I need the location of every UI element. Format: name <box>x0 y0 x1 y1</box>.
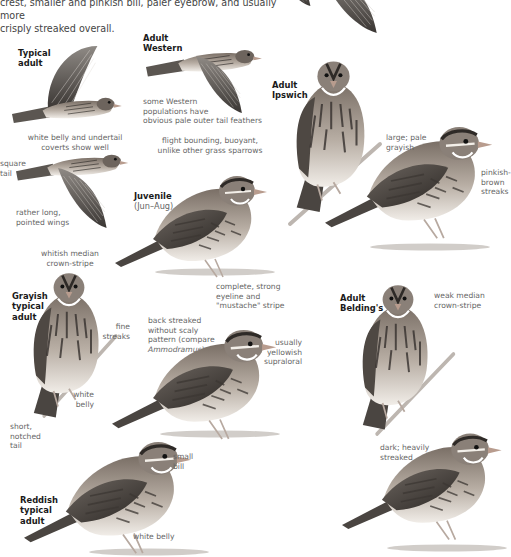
note-line: unlike other grass sparrows <box>145 146 275 156</box>
note-line: populations have <box>143 107 283 117</box>
note-line: brown <box>481 178 511 188</box>
note-line: small <box>173 452 193 462</box>
note-pale-outer-tail: some Western populations have obvious pa… <box>143 97 283 126</box>
note-eyeline-mustache: complete, strong eyeline and "mustache" … <box>216 282 285 311</box>
note-yellowish-supraloral: usually yellowish supraloral <box>262 338 302 367</box>
grayish-typical-adult-illustration <box>14 270 110 430</box>
label-line: Reddish <box>20 495 58 505</box>
intro-line-1: crest, smaller and pinkish bill, paler e… <box>0 0 300 22</box>
note-line: complete, strong <box>216 282 285 292</box>
note-line: white belly and undertail <box>20 133 130 143</box>
note-line: crown-stripe <box>434 301 485 311</box>
juvenile-illustration <box>115 165 275 280</box>
note-line: grayish <box>386 143 426 153</box>
note-line: supraloral <box>262 357 302 367</box>
note-line: large; pale <box>386 133 426 143</box>
note-line: flight bounding, buoyant, <box>145 136 275 146</box>
note-line: obvious pale outer tail feathers <box>143 116 283 126</box>
note-line: belly <box>68 400 94 410</box>
note-line: "mustache" stripe <box>216 301 285 311</box>
note-white-belly-reddish: white belly <box>133 532 174 542</box>
label-reddish-typical-adult: Reddish typical adult <box>20 495 58 526</box>
note-line: whitish median <box>38 249 102 259</box>
note-whitish-median-crown-stripe: whitish median crown-stripe <box>38 249 102 268</box>
intro-text: crest, smaller and pinkish bill, paler e… <box>0 0 300 36</box>
note-line: usually <box>262 338 302 348</box>
note-weak-median-crown-stripe: weak median crown-stripe <box>434 291 485 310</box>
note-pinkish-brown-streaks: pinkish- brown streaks <box>481 168 511 197</box>
dark-streaked-adult-illustration <box>342 422 502 552</box>
typical-adult-flight-illustration <box>12 46 122 130</box>
note-line: eyeline and <box>216 292 285 302</box>
note-large-pale-grayish: large; pale grayish <box>386 133 426 152</box>
label-line: typical <box>20 505 58 515</box>
note-line: rather long, <box>16 208 69 218</box>
note-white-belly-grayish: white belly <box>68 390 94 409</box>
note-flight-bounding: flight bounding, buoyant, unlike other g… <box>145 136 275 155</box>
label-line: adult <box>20 516 58 526</box>
note-line: white <box>68 390 94 400</box>
note-line: yellowish <box>262 348 302 358</box>
flight-bird-top-right-illustration <box>270 0 380 42</box>
center-adult-illustration <box>112 318 282 443</box>
note-line: weak median <box>434 291 485 301</box>
adult-beldings-illustration <box>343 282 439 442</box>
note-line: bill <box>173 462 193 472</box>
note-pointed-wings: rather long, pointed wings <box>16 208 69 227</box>
note-line: pinkish- <box>481 168 511 178</box>
note-line: some Western <box>143 97 283 107</box>
note-line: crown-stripe <box>38 259 102 269</box>
note-line: streaks <box>481 187 511 197</box>
note-line: pointed wings <box>16 218 69 228</box>
note-small-bill: small bill <box>173 452 193 471</box>
